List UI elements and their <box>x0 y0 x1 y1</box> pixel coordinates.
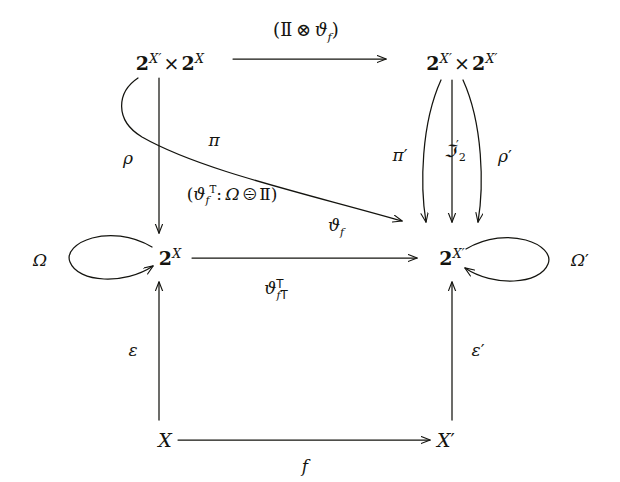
omega-loop-curve <box>69 236 153 280</box>
label-theta-f-transpose: ϑTfT <box>264 279 288 302</box>
label-omega: Ω <box>33 252 47 269</box>
label-omega-prime: Ω′ <box>571 252 589 269</box>
label-pi: π <box>208 132 219 149</box>
label-rho: ρ <box>123 150 133 167</box>
node-mid-left: 2X <box>159 248 182 268</box>
label-f: f <box>302 458 308 475</box>
label-epsilon-prime: ε′ <box>472 342 485 359</box>
label-theta-f: ϑf <box>328 217 344 238</box>
label-paren-theta: (ϑfT: Ω ⨸ II) <box>187 185 278 207</box>
label-rho-prime: ρ′ <box>498 148 512 165</box>
label-epsilon: ε <box>128 342 137 359</box>
node-bottom-right: X′ <box>437 431 455 450</box>
node-bottom-left: X <box>158 431 172 450</box>
label-j2-prime: ℑ′2 <box>444 140 466 163</box>
pi-prime-arrow-curve <box>423 80 441 222</box>
node-mid-right: 2X′ <box>439 248 465 268</box>
label-top-arrow: (II ⊗ ϑf) <box>273 21 339 43</box>
node-top-left: 2X′×2X <box>136 53 204 73</box>
node-top-right: 2X′×2X′ <box>426 53 497 73</box>
omega-prime-loop-curve <box>465 238 549 282</box>
label-pi-prime: π′ <box>392 147 407 164</box>
commutative-diagram: 2X′×2X 2X′×2X′ 2X 2X′ X X′ (II ⊗ ϑf) ρ π… <box>0 0 620 482</box>
diagram-edges <box>0 0 620 482</box>
